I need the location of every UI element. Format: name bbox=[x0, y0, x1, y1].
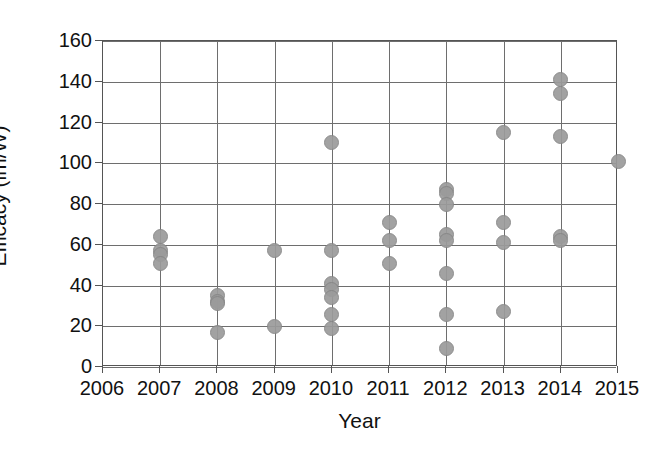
x-tick-label: 2015 bbox=[595, 377, 640, 400]
data-point bbox=[553, 72, 568, 87]
y-tick-mark bbox=[95, 40, 102, 41]
x-tick-mark bbox=[274, 366, 275, 373]
data-point bbox=[153, 229, 168, 244]
x-tick-label: 2008 bbox=[194, 377, 239, 400]
x-tick-label: 2006 bbox=[80, 377, 125, 400]
data-point bbox=[553, 233, 568, 248]
data-point bbox=[496, 235, 511, 250]
data-point bbox=[210, 296, 225, 311]
x-tick-mark bbox=[331, 366, 332, 373]
gridline-horizontal bbox=[103, 245, 616, 246]
x-axis-title: Year bbox=[102, 409, 617, 433]
gridline-horizontal bbox=[103, 286, 616, 287]
y-tick-label: 80 bbox=[70, 192, 92, 215]
x-tick-label: 2009 bbox=[251, 377, 296, 400]
data-point bbox=[324, 321, 339, 336]
data-point bbox=[382, 233, 397, 248]
x-tick-label: 2013 bbox=[480, 377, 525, 400]
x-tick-label: 2007 bbox=[137, 377, 182, 400]
plot-area bbox=[102, 40, 617, 366]
y-tick-label: 120 bbox=[59, 110, 92, 133]
gridline-vertical bbox=[160, 41, 161, 365]
gridline-horizontal bbox=[103, 41, 616, 42]
y-tick-label: 40 bbox=[70, 273, 92, 296]
data-point bbox=[496, 125, 511, 140]
y-tick-mark bbox=[95, 162, 102, 163]
x-tick-label: 2010 bbox=[309, 377, 354, 400]
gridline-horizontal bbox=[103, 123, 616, 124]
gridline-vertical bbox=[275, 41, 276, 365]
data-point bbox=[324, 135, 339, 150]
x-tick-mark bbox=[216, 366, 217, 373]
data-point bbox=[553, 86, 568, 101]
data-point bbox=[439, 197, 454, 212]
x-tick-label: 2011 bbox=[367, 377, 410, 400]
data-point bbox=[153, 256, 168, 271]
data-point bbox=[439, 341, 454, 356]
gridline-horizontal bbox=[103, 163, 616, 164]
y-tick-mark bbox=[95, 244, 102, 245]
y-tick-label: 100 bbox=[59, 151, 92, 174]
x-tick-mark bbox=[159, 366, 160, 373]
data-point bbox=[496, 304, 511, 319]
scatter-chart-figure: 020406080100120140160 Efficacy (lm/W) 20… bbox=[0, 0, 665, 452]
y-tick-label: 60 bbox=[70, 232, 92, 255]
data-point bbox=[439, 307, 454, 322]
y-tick-mark bbox=[95, 285, 102, 286]
x-tick-label: 2014 bbox=[538, 377, 583, 400]
y-tick-mark bbox=[95, 203, 102, 204]
gridline-horizontal bbox=[103, 82, 616, 83]
y-tick-mark bbox=[95, 122, 102, 123]
y-tick-mark bbox=[95, 325, 102, 326]
y-axis-tick-labels: 020406080100120140160 bbox=[0, 0, 92, 452]
gridline-horizontal bbox=[103, 204, 616, 205]
x-tick-mark bbox=[445, 366, 446, 373]
x-tick-mark bbox=[617, 366, 618, 373]
data-point bbox=[611, 154, 626, 169]
x-tick-mark bbox=[388, 366, 389, 373]
y-tick-mark bbox=[95, 366, 102, 367]
gridline-vertical bbox=[389, 41, 390, 365]
data-point bbox=[382, 256, 397, 271]
data-point bbox=[267, 319, 282, 334]
y-tick-label: 20 bbox=[70, 314, 92, 337]
y-axis-title: Efficacy (lm/W) bbox=[0, 31, 11, 361]
x-tick-label: 2012 bbox=[423, 377, 468, 400]
data-point bbox=[382, 215, 397, 230]
data-point bbox=[324, 307, 339, 322]
gridline-horizontal bbox=[103, 326, 616, 327]
gridline-vertical bbox=[217, 41, 218, 365]
data-point bbox=[496, 215, 511, 230]
y-tick-mark bbox=[95, 81, 102, 82]
data-point bbox=[324, 290, 339, 305]
data-point bbox=[324, 243, 339, 258]
data-point bbox=[210, 325, 225, 340]
data-point bbox=[553, 129, 568, 144]
data-point bbox=[267, 243, 282, 258]
y-tick-label: 0 bbox=[81, 355, 92, 378]
x-tick-mark bbox=[102, 366, 103, 373]
data-point bbox=[439, 233, 454, 248]
gridline-horizontal bbox=[103, 367, 616, 368]
y-tick-label: 140 bbox=[59, 69, 92, 92]
y-tick-label: 160 bbox=[59, 29, 92, 52]
x-tick-mark bbox=[503, 366, 504, 373]
data-point bbox=[439, 266, 454, 281]
x-tick-mark bbox=[560, 366, 561, 373]
